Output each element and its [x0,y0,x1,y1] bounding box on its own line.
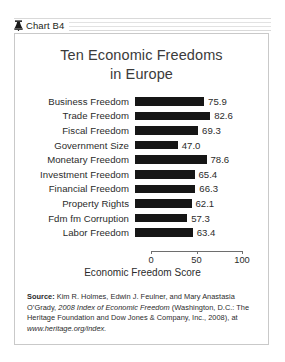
bar-value-label: 65.4 [199,169,218,180]
bar-category-label: Government Size [15,140,135,151]
bar-row: Property Rights62.1 [15,196,270,211]
bar [135,126,198,135]
x-axis-tick-label: 0 [148,255,153,265]
bar-track: 57.3 [135,211,270,226]
chart-title-line-2: in Europe [15,65,268,84]
chart-card: Ten Economic Freedoms in Europe Business… [14,33,269,345]
bar-track: 82.6 [135,109,270,124]
bar-value-label: 63.4 [197,227,216,238]
bar-track: 75.9 [135,94,270,109]
bar-category-label: Financial Freedom [15,183,135,194]
bar-value-label: 47.0 [182,140,201,151]
x-axis-tick-label: 50 [191,255,201,265]
bar-category-label: Business Freedom [15,96,135,107]
bar [135,170,195,179]
bar-row: Investment Freedom65.4 [15,167,270,182]
chart-title-line-1: Ten Economic Freedoms [15,46,268,65]
bar-value-label: 62.1 [196,198,215,209]
chart-header: Chart B4 [14,17,271,33]
bar [135,199,192,208]
source-url: www.heritage.org/index. [27,324,106,333]
bar-row: Financial Freedom66.3 [15,182,270,197]
source-prefix: Source: [27,292,55,301]
bar-value-label: 75.9 [208,96,227,107]
bar-track: 69.3 [135,123,270,138]
bar-track: 65.4 [135,167,270,182]
bar [135,112,210,121]
bar-row: Trade Freedom82.6 [15,109,270,124]
chart-title: Ten Economic Freedoms in Europe [15,46,268,84]
bar [135,214,187,223]
bar-row: Monetary Freedom78.6 [15,152,270,167]
bar-row: Labor Freedom63.4 [15,225,270,240]
bar-chart-plot: Business Freedom75.9Trade Freedom82.6Fis… [15,94,270,254]
bar-category-label: Fdm fm Corruption [15,213,135,224]
bar-row: Fdm fm Corruption57.3 [15,211,270,226]
bar [135,185,195,194]
bar-track: 47.0 [135,138,270,153]
bar-value-label: 69.3 [202,125,221,136]
bar [135,228,193,237]
bar-value-label: 57.3 [191,213,210,224]
bar-category-label: Labor Freedom [15,227,135,238]
bar-row: Fiscal Freedom69.3 [15,123,270,138]
x-axis-tick [197,251,198,254]
bar-track: 63.4 [135,225,270,240]
bar-row: Government Size47.0 [15,138,270,153]
x-axis-tick-label: 100 [234,255,250,265]
bar-value-label: 66.3 [199,183,218,194]
chart-number-label: Chart B4 [26,20,64,31]
bar-category-label: Monetary Freedom [15,154,135,165]
bar-row: Business Freedom75.9 [15,94,270,109]
bar-value-label: 78.6 [211,154,230,165]
bar-category-label: Investment Freedom [15,169,135,180]
bar [135,155,207,164]
bar-category-label: Fiscal Freedom [15,125,135,136]
liberty-bell-icon [14,20,23,31]
bar-category-label: Trade Freedom [15,110,135,121]
source-publication-title: 2008 Index of Economic Freedom [58,303,170,312]
bar-category-label: Property Rights [15,198,135,209]
bar-value-label: 82.6 [214,110,233,121]
bar-track: 62.1 [135,196,270,211]
source-note: Source: Kim R. Holmes, Edwin J. Feulner,… [27,292,261,334]
x-axis-title: Economic Freedom Score [15,267,270,278]
bar-track: 78.6 [135,152,270,167]
x-axis-tick [242,251,243,254]
chart-figure: Chart B4 Ten Economic Freedoms in Europe… [0,0,285,362]
bar [135,141,178,150]
bar [135,97,204,106]
x-axis-tick [151,251,152,254]
bar-track: 66.3 [135,182,270,197]
